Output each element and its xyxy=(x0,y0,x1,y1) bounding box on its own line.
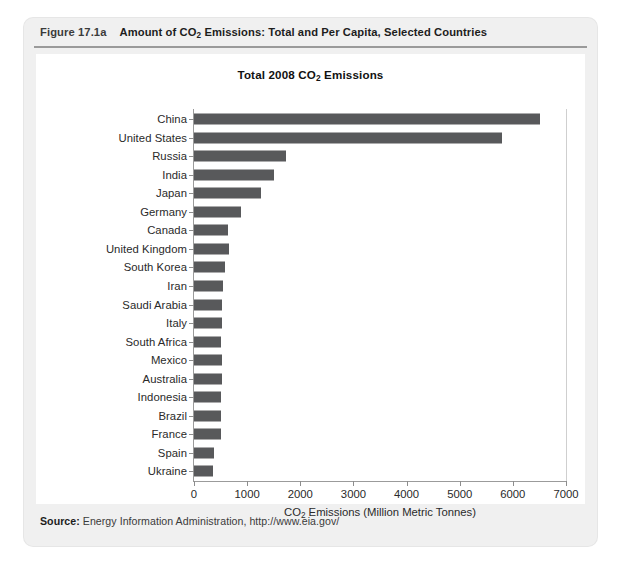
figure-source-text: Energy Information Administration, http:… xyxy=(80,515,339,527)
x-axis-tick-label: 2000 xyxy=(288,488,313,500)
y-axis-tick xyxy=(189,119,194,120)
bar xyxy=(194,336,221,347)
x-axis-tick xyxy=(566,481,567,486)
y-axis-tick xyxy=(189,230,194,231)
bar xyxy=(194,299,222,310)
figure-caption-pre: Amount of CO xyxy=(120,26,197,38)
x-axis-tick-label: 1000 xyxy=(235,488,260,500)
bar xyxy=(194,151,286,162)
figure-source-label: Source: xyxy=(40,515,80,527)
figure-number: Figure 17.1a xyxy=(40,26,107,38)
x-axis-tick-label: 5000 xyxy=(447,488,472,500)
y-axis-label: Germany xyxy=(140,206,194,218)
plot-area: 01000200030004000500060007000 CO2 Emissi… xyxy=(36,54,585,504)
y-axis-tick xyxy=(189,434,194,435)
y-axis-tick xyxy=(189,193,194,194)
y-axis-label: Canada xyxy=(147,224,194,236)
y-axis-tick xyxy=(189,397,194,398)
y-axis-label: France xyxy=(152,428,194,440)
y-axis-label: Indonesia xyxy=(138,391,194,403)
y-axis-label: Ukraine xyxy=(148,465,194,477)
bar xyxy=(194,169,274,180)
y-axis-tick xyxy=(189,249,194,250)
bar xyxy=(194,243,229,254)
y-axis-tick xyxy=(189,138,194,139)
x-axis-tick xyxy=(300,481,301,486)
figure-card: Figure 17.1a Amount of CO2 Emissions: To… xyxy=(24,18,597,546)
y-axis-tick xyxy=(189,453,194,454)
y-axis-label: South Korea xyxy=(124,261,194,273)
y-axis-line xyxy=(193,109,194,482)
bar xyxy=(194,447,214,458)
y-axis-label: Saudi Arabia xyxy=(122,299,194,311)
chart-panel: Total 2008 CO2 Emissions 010002000300040… xyxy=(36,54,585,504)
bar xyxy=(194,392,221,403)
bar xyxy=(194,280,223,291)
x-axis-tick xyxy=(194,481,195,486)
y-axis-tick xyxy=(189,471,194,472)
bar xyxy=(194,132,502,143)
bar xyxy=(194,188,261,199)
x-axis-tick-label: 0 xyxy=(191,488,197,500)
bar xyxy=(194,466,213,477)
y-axis-tick xyxy=(189,212,194,213)
figure-source: Source: Energy Information Administratio… xyxy=(40,515,339,527)
y-axis-label: United States xyxy=(119,132,194,144)
y-axis-label: South Africa xyxy=(125,336,194,348)
header-divider xyxy=(34,46,587,48)
x-axis-line xyxy=(193,481,567,482)
y-axis-label: Mexico xyxy=(151,354,194,366)
y-axis-tick xyxy=(189,305,194,306)
y-axis-tick xyxy=(189,286,194,287)
bar xyxy=(194,114,540,125)
y-axis-tick xyxy=(189,267,194,268)
y-axis-tick xyxy=(189,323,194,324)
x-axis-tick xyxy=(353,481,354,486)
y-axis-tick xyxy=(189,156,194,157)
bar xyxy=(194,318,222,329)
y-axis-tick xyxy=(189,379,194,380)
figure-header: Figure 17.1a Amount of CO2 Emissions: To… xyxy=(24,18,597,46)
y-axis-tick xyxy=(189,416,194,417)
x-axis-tick-label: 4000 xyxy=(394,488,419,500)
x-axis-tick-label: 3000 xyxy=(341,488,366,500)
figure-caption: Amount of CO2 Emissions: Total and Per C… xyxy=(120,26,488,38)
bar xyxy=(194,373,222,384)
bar xyxy=(194,410,221,421)
gridline-right xyxy=(566,109,567,482)
y-axis-tick xyxy=(189,175,194,176)
x-axis-tick xyxy=(513,481,514,486)
x-axis-tick xyxy=(460,481,461,486)
bar xyxy=(194,262,225,273)
x-axis-tick xyxy=(407,481,408,486)
y-axis-tick xyxy=(189,342,194,343)
bar xyxy=(194,206,241,217)
y-axis-label: Russia xyxy=(152,150,194,162)
figure-caption-post: Emissions: Total and Per Capita, Selecte… xyxy=(201,26,487,38)
x-axis-tick-label: 6000 xyxy=(500,488,525,500)
x-axis-tick-label: 7000 xyxy=(553,488,578,500)
bar xyxy=(194,355,222,366)
y-axis-label: Australia xyxy=(143,373,194,385)
figure-caption-subscript: 2 xyxy=(197,31,202,40)
y-axis-tick xyxy=(189,360,194,361)
y-axis-label: United Kingdom xyxy=(106,243,194,255)
x-axis-tick xyxy=(247,481,248,486)
bar xyxy=(194,225,228,236)
bar xyxy=(194,429,221,440)
